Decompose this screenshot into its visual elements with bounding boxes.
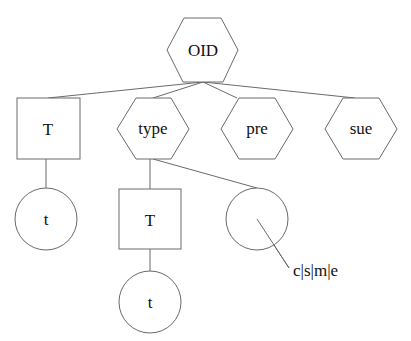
node-T-left: T <box>17 98 80 159</box>
node-empty-circle <box>226 188 289 268</box>
node-label: t <box>148 293 153 312</box>
node-label: T <box>43 120 54 139</box>
node-t-lower: t <box>119 271 181 333</box>
node-t-left: t <box>15 188 77 250</box>
node-pre: pre <box>221 98 293 159</box>
node-label: OID <box>188 41 218 60</box>
edge-type-empty <box>153 159 257 188</box>
node-label: type <box>138 119 167 138</box>
edge-oid-pre <box>203 82 237 98</box>
edge-oid-T <box>48 82 203 98</box>
node-label: T <box>145 211 156 230</box>
node-label: sue <box>350 119 373 138</box>
node-label: t <box>44 210 49 229</box>
node-T-lower: T <box>119 189 181 249</box>
node-oid: OID <box>167 18 238 82</box>
node-label: pre <box>246 119 268 138</box>
node-sue: sue <box>325 98 397 159</box>
edge-oid-sue <box>203 82 355 98</box>
edges <box>46 82 355 271</box>
tree-diagram: OID T type pre sue t T t c|s|m|e <box>0 0 411 341</box>
annotation-label: c|s|m|e <box>293 261 338 280</box>
node-type: type <box>117 98 189 159</box>
